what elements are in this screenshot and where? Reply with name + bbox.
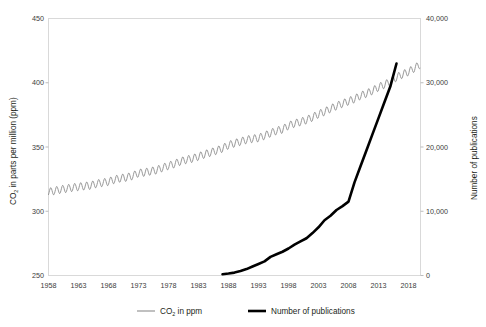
x-tick-label: 1983 — [191, 281, 207, 290]
x-tick-label: 1978 — [161, 281, 177, 290]
x-tick-label: 2018 — [401, 281, 417, 290]
left-axis-title: CO2 in parts per million (ppm) — [9, 97, 19, 205]
x-tick-label: 1958 — [41, 281, 57, 290]
right-axis-ticks: 010,00020,00030,00040,000 — [421, 14, 448, 280]
x-tick-label: 2013 — [371, 281, 387, 290]
right-tick-label: 30,000 — [426, 78, 448, 87]
x-tick-label: 1988 — [221, 281, 237, 290]
right-tick-label: 40,000 — [426, 14, 448, 23]
x-tick-label: 1963 — [71, 281, 87, 290]
x-tick-label: 1968 — [101, 281, 117, 290]
x-axis-ticks: 1958196319681973197819831988199319982003… — [41, 281, 417, 290]
chart-figure: 250300350400450 010,00020,00030,00040,00… — [0, 0, 486, 327]
legend-label-publications: Number of publications — [271, 307, 355, 316]
legend-label-co2: CO2 in ppm — [160, 307, 202, 317]
x-tick-label: 1993 — [251, 281, 267, 290]
co2-and-publications-chart: 250300350400450 010,00020,00030,00040,00… — [0, 0, 486, 327]
left-axis-title-main: CO — [9, 193, 18, 205]
right-tick-label: 20,000 — [426, 143, 448, 152]
left-tick-label: 300 — [32, 207, 44, 216]
left-tick-label: 400 — [32, 78, 44, 87]
right-tick-label: 0 — [426, 271, 430, 280]
right-axis-title: Number of publications — [470, 116, 479, 200]
x-tick-label: 2008 — [341, 281, 357, 290]
left-axis-ticks: 250300350400450 — [32, 14, 49, 280]
series-layer — [49, 63, 421, 274]
series-line-co2 — [49, 63, 421, 195]
right-tick-label: 10,000 — [426, 207, 448, 216]
left-axis-title-tail: in parts per million (ppm) — [9, 97, 18, 190]
left-tick-label: 450 — [32, 14, 44, 23]
left-tick-label: 250 — [32, 271, 44, 280]
legend: CO2 in ppm Number of publications — [137, 307, 355, 317]
x-tick-label: 2003 — [311, 281, 327, 290]
x-tick-label: 1998 — [281, 281, 297, 290]
left-tick-label: 350 — [32, 143, 44, 152]
x-tick-label: 1973 — [131, 281, 147, 290]
series-line-publications — [223, 63, 397, 274]
